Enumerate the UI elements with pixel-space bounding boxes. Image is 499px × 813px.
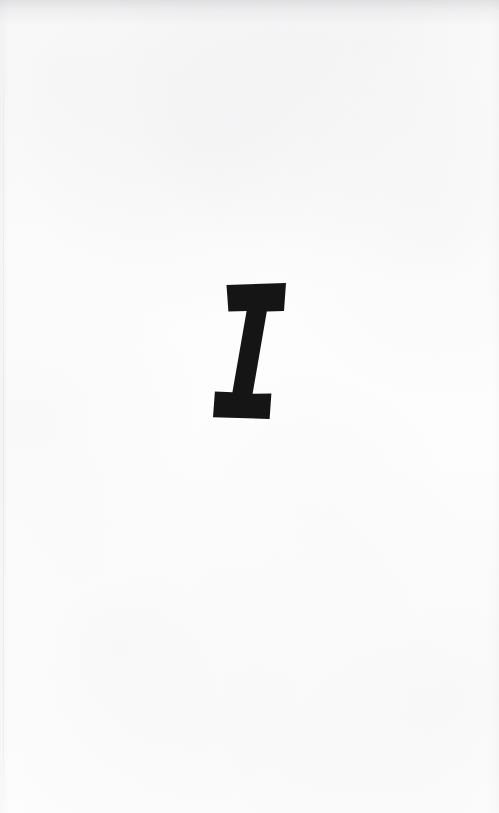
roman-numeral-one-glyph	[213, 283, 286, 419]
scan-shadow-top	[0, 0, 499, 26]
part-divider-numeral: I	[0, 283, 499, 419]
scanned-page: I	[0, 0, 499, 813]
